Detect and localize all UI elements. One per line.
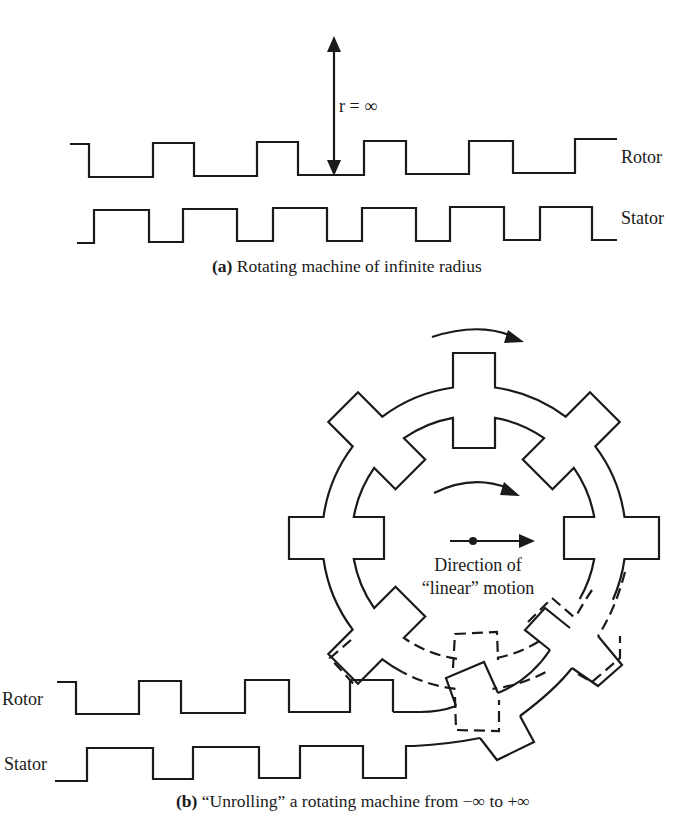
figure-a: r = ∞ Rotor Stator (a) Rotating machine … xyxy=(70,36,664,276)
rotor-waveform-b xyxy=(57,680,393,714)
arrow-right-icon xyxy=(519,534,535,548)
outer-rotation-arc xyxy=(432,329,512,337)
unrolled-stator-tooth xyxy=(480,716,534,760)
lower-right-inner-tooth xyxy=(525,608,570,650)
caption-a: (a) Rotating machine of infinite radius xyxy=(212,256,482,276)
original-bottom-inner-tooth xyxy=(453,632,498,668)
unrolled-rotor-curve xyxy=(393,706,456,712)
caption-b-prefix: (b) xyxy=(176,791,198,811)
arrow-down-icon xyxy=(327,160,341,176)
rotor-ring-original-position xyxy=(409,642,538,659)
stator-ring-original-position xyxy=(403,672,546,689)
caption-b: (b) “Unrolling” a rotating machine from … xyxy=(176,791,530,811)
arrow-up-icon xyxy=(327,36,341,52)
stator-waveform-b xyxy=(55,746,414,781)
motion-label-line1: Direction of xyxy=(434,555,521,575)
caption-a-prefix: (a) xyxy=(212,256,233,276)
caption-b-text: “Unrolling” a rotating machine from −∞ t… xyxy=(197,791,529,811)
stator-label-a: Stator xyxy=(621,208,664,228)
center-dot-icon xyxy=(469,537,477,545)
unrolled-stator-curve xyxy=(414,738,480,746)
radius-label: r = ∞ xyxy=(339,96,377,116)
rotation-arrow-outer-icon xyxy=(504,330,524,343)
original-bottom-outer-tooth xyxy=(455,697,499,731)
figure-b: Direction of “linear” motion Rotor Stato… xyxy=(2,329,659,811)
rotor-label-a: Rotor xyxy=(621,147,662,167)
stator-waveform-a xyxy=(77,207,617,243)
caption-a-text: Rotating machine of infinite radius xyxy=(232,256,482,276)
inner-rotation-arc xyxy=(434,482,508,493)
rotor-label-b: Rotor xyxy=(2,689,43,709)
unrolled-machine-diagram: r = ∞ Rotor Stator (a) Rotating machine … xyxy=(0,0,693,833)
outer-arc-dashed-right xyxy=(598,572,625,636)
rotor-ring-inner-profile xyxy=(354,418,594,642)
rotor-waveform-a xyxy=(70,139,617,177)
lower-right-outer-tooth-original xyxy=(578,636,620,682)
rotation-arrow-inner-icon xyxy=(500,482,520,496)
motion-label-line2: “linear” motion xyxy=(422,578,534,598)
unrolled-rotor-tooth xyxy=(446,662,498,706)
stator-label-b: Stator xyxy=(4,754,47,774)
